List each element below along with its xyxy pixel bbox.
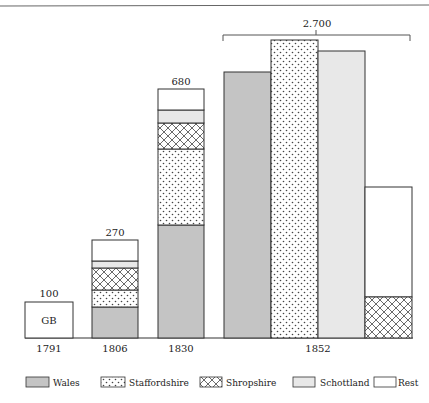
x-label-1806: 1806 <box>102 343 127 354</box>
legend-label-staffordshire: Staffordshire <box>129 378 189 388</box>
segment-shropshire <box>158 123 204 149</box>
legend-label-schottland: Schottland <box>320 378 370 388</box>
total-label-1791: 100 <box>39 288 58 299</box>
bar-1806: 270 <box>92 227 138 338</box>
total-label-1830: 680 <box>171 76 190 87</box>
legend-item-wales: Wales <box>26 377 80 388</box>
legend-swatch-rest <box>374 377 396 387</box>
bracket-1852 <box>223 30 410 41</box>
legend-item-rest: Rest <box>374 377 419 388</box>
legend-item-shropshire: Shropshire <box>200 377 276 388</box>
top-rule <box>0 5 429 6</box>
segment-schottland <box>92 261 138 268</box>
legend-label-rest: Rest <box>398 378 419 388</box>
bar-1852-wales <box>224 72 271 338</box>
bar-1852-shropshire <box>365 297 412 338</box>
legend-label-wales: Wales <box>53 378 80 388</box>
bar-1852-staffordshire <box>271 40 318 338</box>
segment-schottland <box>158 110 204 123</box>
bar-1852-rest <box>365 187 412 297</box>
x-label-1852: 1852 <box>305 343 330 354</box>
legend-item-staffordshire: Staffordshire <box>101 377 189 388</box>
bar-1852-schottland <box>318 51 365 338</box>
chart: GB 100 270 680 2.700 1791 1806 1830 1852 <box>0 0 429 403</box>
segment-staffordshire <box>158 149 204 225</box>
legend: Wales Staffordshire Shropshire Schottlan… <box>26 377 419 388</box>
segment-shropshire <box>92 268 138 290</box>
segment-wales <box>92 307 138 338</box>
legend-label-shropshire: Shropshire <box>226 378 276 388</box>
segment-staffordshire <box>92 290 138 307</box>
segment-rest <box>92 240 138 261</box>
bar-1791-inner-label: GB <box>41 315 56 326</box>
bar-1791: GB 100 <box>25 288 73 338</box>
x-label-1791: 1791 <box>36 343 61 354</box>
x-label-1830: 1830 <box>168 343 193 354</box>
legend-swatch-wales <box>26 377 49 387</box>
legend-swatch-staffordshire <box>101 377 125 387</box>
segment-wales <box>158 225 204 338</box>
legend-swatch-schottland <box>293 377 315 387</box>
bars-1852: 2.700 <box>223 18 412 338</box>
legend-item-schottland: Schottland <box>293 377 370 388</box>
legend-swatch-shropshire <box>200 377 222 387</box>
total-label-1852: 2.700 <box>303 18 332 29</box>
total-label-1806: 270 <box>105 227 124 238</box>
bar-1830: 680 <box>158 76 204 338</box>
segment-rest <box>158 89 204 110</box>
